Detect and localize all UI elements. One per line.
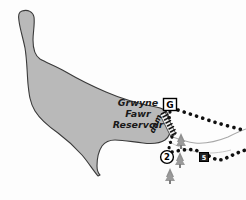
marker-2[interactable]: 2 [161,151,174,164]
marker-5[interactable]: 5 [200,153,209,162]
marker-5-label: 5 [202,154,207,162]
reservoir-label-line1: Grwyne [118,97,159,108]
map-canvas: dam Grwyne Fawr Reservoir [0,0,246,200]
reservoir-label-line3: Reservoir [113,119,165,130]
map-svg: dam Grwyne Fawr Reservoir [0,0,246,200]
marker-g[interactable]: G [164,99,177,111]
marker-2-label: 2 [164,152,170,162]
reservoir-label-line2: Fawr [125,108,152,119]
marker-g-label: G [166,100,173,110]
